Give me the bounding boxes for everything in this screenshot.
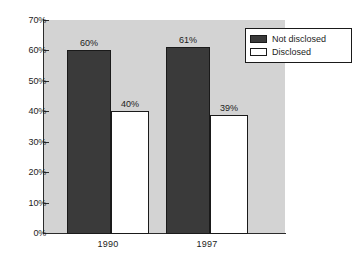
x-axis-label-1997: 1997 <box>177 239 237 249</box>
y-axis-label-70: 70% <box>6 16 46 25</box>
bar-value-1990-not-disclosed: 60% <box>67 38 111 48</box>
bar-value-1997-not-disclosed: 61% <box>166 35 210 45</box>
y-axis-label-50: 50% <box>6 77 46 86</box>
bar-value-1990-disclosed: 40% <box>110 99 150 109</box>
legend-label-disclosed: Disclosed <box>272 47 311 57</box>
legend-item-disclosed: Disclosed <box>250 46 347 58</box>
bar-chart: 70% 60% 50% 40% 30% 20% 10% 0% 60% 40% 6… <box>0 0 360 270</box>
y-axis-label-10: 10% <box>6 199 46 208</box>
legend-swatch-disclosed <box>250 48 267 56</box>
bar-1997-disclosed <box>210 115 248 234</box>
bar-1990-not-disclosed <box>67 50 111 234</box>
y-axis-label-20: 20% <box>6 168 46 177</box>
bar-1997-not-disclosed <box>166 47 210 234</box>
bar-1990-disclosed <box>111 111 149 234</box>
legend-swatch-not-disclosed <box>250 35 267 43</box>
legend-label-not-disclosed: Not disclosed <box>272 34 326 44</box>
y-axis-label-40: 40% <box>6 107 46 116</box>
legend-item-not-disclosed: Not disclosed <box>250 33 347 45</box>
x-axis-label-1990: 1990 <box>78 239 138 249</box>
y-axis-label-60: 60% <box>6 46 46 55</box>
y-axis-label-0: 0% <box>6 229 46 238</box>
y-axis-label-30: 30% <box>6 138 46 147</box>
bar-value-1997-disclosed: 39% <box>209 103 249 113</box>
chart-legend: Not disclosed Disclosed <box>245 28 352 63</box>
